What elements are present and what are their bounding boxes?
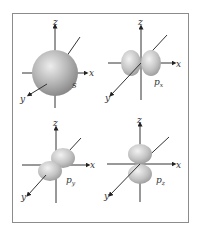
- y-axis: [28, 175, 46, 195]
- panel-s-orbital: z x y s: [19, 17, 94, 108]
- orbital-label-px: px: [154, 77, 164, 88]
- orbital-label-py: py: [66, 175, 76, 187]
- y-label: y: [20, 192, 27, 202]
- z-label: z: [52, 118, 58, 128]
- px-lobe-right: [141, 50, 161, 76]
- orbital-diagram: z x y s z x y px z x y py z: [0, 0, 201, 235]
- x-label: x: [176, 59, 181, 69]
- orbital-label-s: s: [72, 80, 77, 90]
- x-label: x: [90, 160, 95, 170]
- y-label: y: [19, 94, 26, 104]
- panel-px-orbital: z x y px: [104, 17, 181, 103]
- x-label: x: [176, 160, 181, 170]
- pz-lobe-top: [128, 144, 152, 164]
- orbital-label-pz: pz: [156, 175, 166, 186]
- x-label: x: [89, 68, 94, 78]
- py-lobe-front: [38, 161, 62, 181]
- y-label: y: [104, 93, 111, 103]
- px-lobe-left: [121, 50, 141, 76]
- panel-pz-orbital: z x y pz: [103, 115, 181, 202]
- z-label: z: [52, 17, 58, 27]
- panel-py-orbital: z x y py: [20, 118, 95, 203]
- y-label: y: [103, 191, 110, 201]
- z-label: z: [137, 17, 143, 27]
- z-label: z: [136, 115, 142, 125]
- pz-lobe-bottom: [128, 164, 152, 184]
